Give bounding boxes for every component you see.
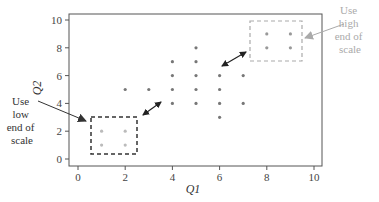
data-point-low-end [124, 144, 127, 147]
x-axis: 0246810 [75, 166, 320, 183]
data-point-main [194, 46, 197, 49]
data-point-low-end [124, 130, 127, 133]
data-point-main [171, 88, 174, 91]
y-tick-label: 8 [57, 42, 63, 54]
data-point-main [171, 60, 174, 63]
data-point-main [147, 88, 150, 91]
double-arrow-low [143, 102, 161, 115]
data-point-main [218, 102, 221, 105]
data-points [100, 32, 292, 146]
data-point-main [194, 102, 197, 105]
data-point-high-end [289, 46, 292, 49]
data-point-main [124, 88, 127, 91]
data-point-main [218, 74, 221, 77]
x-tick-label: 10 [309, 171, 321, 183]
x-tick-label: 6 [217, 171, 223, 183]
x-axis-title: Q1 [186, 182, 201, 196]
low-annotation-text: Use low end of scale [7, 95, 38, 146]
y-tick-label: 0 [57, 153, 63, 165]
data-point-main [218, 116, 221, 119]
data-point-main [194, 88, 197, 91]
high-end-box [250, 21, 302, 61]
data-point-main [171, 74, 174, 77]
data-point-main [171, 102, 174, 105]
y-tick-label: 2 [57, 125, 63, 137]
double-arrow-high [222, 52, 246, 66]
low-end-box [91, 117, 137, 154]
y-axis-title: Q2 [30, 81, 44, 96]
y-tick-label: 6 [57, 70, 63, 82]
data-point-high-end [265, 32, 268, 35]
data-point-main [242, 74, 245, 77]
y-axis: 0246810 [51, 14, 69, 165]
y-tick-label: 4 [57, 97, 63, 109]
data-point-low-end [100, 130, 103, 133]
data-point-main [242, 102, 245, 105]
data-point-low-end [100, 144, 103, 147]
data-point-high-end [289, 32, 292, 35]
low-annotation-arrow [38, 101, 86, 121]
x-tick-label: 0 [75, 171, 81, 183]
y-tick-label: 10 [51, 14, 63, 26]
data-point-main [218, 88, 221, 91]
x-tick-label: 2 [122, 171, 128, 183]
data-point-main [194, 74, 197, 77]
data-point-main [194, 60, 197, 63]
scatter-chart: 0246810 0246810 Q1 Q2 Use low end of sca… [0, 0, 379, 202]
high-annotation-text: Use high end of scale [335, 4, 366, 55]
x-tick-label: 8 [264, 171, 270, 183]
data-point-high-end [265, 46, 268, 49]
x-tick-label: 4 [170, 171, 176, 183]
